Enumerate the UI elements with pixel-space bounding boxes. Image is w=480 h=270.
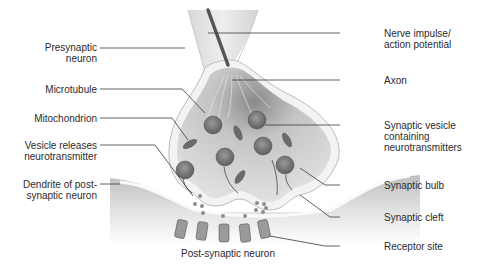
synapse-diagram: Presynaptic neuron Microtubule Mitochond…	[0, 0, 480, 270]
label-synaptic-vesicle: Synaptic vesicle containing neurotransmi…	[384, 120, 462, 153]
label-receptor-site: Receptor site	[384, 241, 443, 252]
label-microtubule: Microtubule	[45, 84, 97, 95]
label-vesicle-releases: Vesicle releases neurotransmitter	[24, 140, 97, 162]
synaptic-bulb-shape	[169, 60, 339, 210]
label-dendrite: Dendrite of post- synaptic neuron	[23, 179, 97, 201]
label-axon: Axon	[384, 75, 407, 86]
label-synaptic-cleft: Synaptic cleft	[384, 212, 443, 223]
label-synaptic-bulb: Synaptic bulb	[384, 180, 444, 191]
label-presynaptic-neuron: Presynaptic neuron	[45, 42, 97, 64]
label-mitochondrion: Mitochondrion	[34, 113, 97, 124]
label-nerve-impulse: Nerve impulse/ action potential	[384, 28, 451, 50]
label-post-synaptic-neuron: Post-synaptic neuron	[181, 248, 275, 259]
